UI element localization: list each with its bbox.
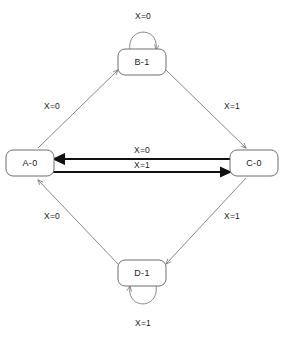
transition-a-to-b: X=0 (38, 70, 118, 148)
transition-c-to-a: X=0 (54, 145, 232, 159)
self-loop-b-path (130, 32, 157, 51)
transition-b-to-c: X=1 (166, 70, 246, 148)
transition-label-b-to-b: X=0 (135, 11, 151, 21)
state-node-d[interactable]: D-1 (118, 260, 166, 286)
self-loop-d-path (130, 285, 157, 304)
state-d-label: D-1 (134, 268, 150, 278)
transition-b-to-b: X=0 (130, 11, 157, 51)
transition-label-d-to-a: X=0 (44, 211, 60, 221)
transition-label-a-to-b: X=0 (44, 101, 60, 111)
transition-d-to-d: X=1 (130, 285, 157, 328)
state-node-a[interactable]: A-0 (6, 150, 54, 176)
state-b-label: B-1 (134, 57, 149, 67)
transition-d-to-a: X=0 (38, 180, 118, 264)
state-a-label: A-0 (22, 158, 37, 168)
transition-label-d-to-d: X=1 (135, 318, 151, 328)
transition-label-a-to-c: X=1 (134, 160, 150, 170)
state-diagram: X=0 X=0 X=1 X=1 X=0 X=0 X= (0, 0, 284, 337)
edge-d-to-a-path (38, 180, 118, 264)
state-c-label: C-0 (246, 158, 262, 168)
diagram-canvas: X=0 X=0 X=1 X=1 X=0 X=0 X= (0, 0, 284, 337)
transition-label-c-to-a: X=0 (134, 145, 150, 155)
transition-a-to-c: X=1 (52, 160, 230, 172)
transition-label-c-to-d: X=1 (224, 211, 240, 221)
transition-c-to-d: X=1 (166, 178, 246, 264)
state-node-b[interactable]: B-1 (118, 49, 166, 75)
state-node-c[interactable]: C-0 (230, 150, 278, 176)
transition-label-b-to-c: X=1 (224, 101, 240, 111)
